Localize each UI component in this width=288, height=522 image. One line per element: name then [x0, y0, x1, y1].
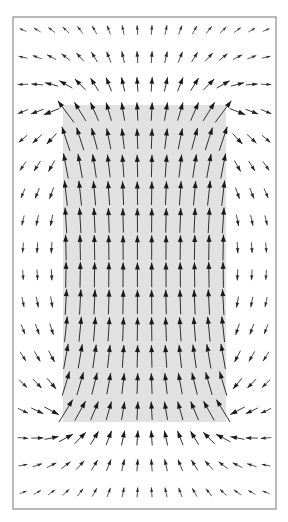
- field-arrow-icon: [236, 242, 240, 253]
- field-arrow-icon: [206, 26, 211, 33]
- field-arrow-icon: [191, 78, 199, 91]
- field-arrow-icon: [47, 55, 56, 60]
- field-arrow-icon: [33, 379, 42, 388]
- field-arrow-icon: [50, 269, 54, 280]
- field-arrow-icon: [248, 490, 255, 494]
- field-arrow-icon: [233, 55, 242, 60]
- field-arrow-icon: [248, 28, 255, 32]
- field-arrow-icon: [216, 434, 230, 442]
- field-arrow-icon: [192, 26, 196, 34]
- field-arrow-icon: [20, 162, 26, 171]
- field-arrow-icon: [91, 460, 97, 470]
- field-arrow-icon: [61, 462, 70, 469]
- field-arrow-icon: [164, 488, 167, 498]
- field-arrow-icon: [220, 489, 227, 495]
- field-arrow-icon: [44, 407, 58, 415]
- field-arrow-icon: [34, 28, 41, 32]
- field-arrow-icon: [121, 431, 126, 446]
- field-arrow-icon: [150, 487, 153, 497]
- magnet-region: [63, 105, 226, 422]
- field-arrow-icon: [262, 135, 271, 142]
- field-arrow-icon: [36, 270, 39, 281]
- field-arrow-icon: [247, 379, 256, 388]
- field-arrow-icon: [107, 26, 110, 35]
- field-arrow-icon: [18, 109, 29, 113]
- field-arrow-icon: [192, 488, 197, 496]
- field-arrow-icon: [262, 464, 271, 467]
- field-arrow-icon: [246, 408, 258, 414]
- field-arrow-icon: [264, 270, 267, 280]
- field-arrow-icon: [264, 297, 267, 307]
- field-arrow-icon: [149, 77, 154, 91]
- field-arrow-icon: [233, 378, 242, 389]
- field-arrow-icon: [205, 53, 213, 62]
- field-arrow-icon: [250, 215, 253, 226]
- field-arrow-icon: [18, 436, 28, 439]
- field-arrow-icon: [106, 431, 112, 445]
- field-arrow-icon: [19, 380, 27, 388]
- field-arrow-icon: [22, 297, 25, 307]
- field-arrow-icon: [230, 109, 246, 115]
- field-arrow-icon: [262, 56, 271, 59]
- field-arrow-icon: [246, 436, 258, 440]
- field-arrow-icon: [50, 188, 54, 199]
- field-arrow-icon: [233, 463, 243, 468]
- field-arrow-icon: [35, 215, 38, 226]
- field-arrow-icon: [91, 78, 99, 91]
- field-arrow-icon: [191, 431, 199, 444]
- field-arrow-icon: [263, 352, 269, 361]
- field-arrow-icon: [48, 27, 55, 32]
- field-arrow-icon: [92, 488, 97, 496]
- field-arrow-icon: [36, 297, 39, 308]
- field-arrow-icon: [121, 459, 125, 471]
- field-arrow-icon: [250, 188, 254, 198]
- field-arrow-icon: [18, 408, 28, 413]
- field-arrow-icon: [135, 431, 140, 446]
- field-arrow-icon: [231, 82, 244, 86]
- field-arrow-icon: [107, 460, 112, 471]
- field-arrow-icon: [31, 408, 43, 414]
- field-arrow-icon: [164, 77, 169, 91]
- field-arrow-icon: [220, 27, 226, 33]
- field-arrow-icon: [21, 324, 25, 334]
- field-arrow-icon: [33, 464, 42, 467]
- field-arrow-icon: [21, 243, 24, 253]
- field-arrow-icon: [249, 161, 255, 171]
- vector-field-figure: [0, 0, 288, 522]
- field-arrow-icon: [164, 51, 168, 62]
- field-arrow-icon: [49, 351, 55, 362]
- field-arrow-icon: [50, 215, 54, 226]
- field-arrow-icon: [263, 29, 270, 32]
- field-arrow-icon: [150, 51, 154, 63]
- field-arrow-icon: [21, 215, 24, 225]
- field-arrow-icon: [59, 81, 72, 88]
- field-arrow-icon: [19, 491, 26, 494]
- field-arrow-icon: [246, 82, 258, 86]
- field-arrow-icon: [261, 436, 271, 439]
- field-arrow-icon: [178, 78, 183, 92]
- field-arrow-icon: [31, 82, 43, 86]
- field-arrow-icon: [136, 487, 139, 497]
- field-arrow-icon: [206, 489, 212, 496]
- field-arrow-icon: [31, 436, 43, 440]
- field-arrow-icon: [219, 462, 228, 469]
- field-arrow-icon: [250, 242, 253, 253]
- field-arrow-icon: [107, 488, 110, 497]
- field-arrow-icon: [236, 215, 240, 226]
- field-arrow-icon: [236, 296, 240, 307]
- field-arrow-icon: [121, 51, 125, 62]
- field-arrow-icon: [217, 81, 230, 88]
- field-arrow-icon: [247, 56, 256, 59]
- field-arrow-icon: [178, 52, 182, 63]
- field-arrow-icon: [21, 270, 24, 280]
- field-arrow-icon: [107, 52, 111, 63]
- field-arrow-icon: [77, 489, 83, 496]
- field-arrow-icon: [250, 270, 253, 281]
- field-arrow-icon: [47, 134, 57, 145]
- field-arrow-icon: [33, 56, 42, 59]
- field-arrow-icon: [48, 160, 54, 171]
- field-arrow-icon: [163, 431, 168, 446]
- field-arrow-icon: [18, 83, 28, 86]
- field-arrow-icon: [122, 25, 125, 34]
- field-arrow-icon: [19, 135, 28, 142]
